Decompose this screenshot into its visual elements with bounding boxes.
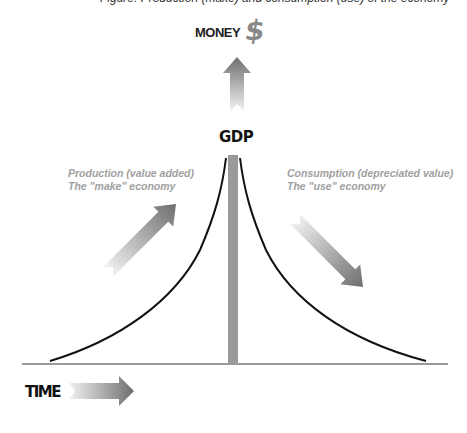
consumption-title: Consumption (depreciated value)	[287, 167, 453, 180]
money-up-arrow	[223, 57, 251, 111]
gdp-bar	[228, 155, 238, 364]
gdp-label: GDP	[219, 128, 253, 146]
time-label: TIME	[25, 383, 60, 401]
consumption-subtitle: The "use" economy	[287, 180, 453, 193]
diagram-canvas	[0, 0, 467, 433]
production-title: Production (value added)	[68, 167, 194, 180]
money-label: MONEY	[195, 25, 240, 40]
production-label: Production (value added) The "make" econ…	[68, 167, 194, 193]
production-subtitle: The "make" economy	[68, 180, 194, 193]
time-right-arrow	[69, 376, 134, 406]
consumption-label: Consumption (depreciated value) The "use…	[287, 167, 453, 193]
consumption-down-arrow	[285, 209, 373, 297]
production-up-arrow	[98, 194, 186, 282]
